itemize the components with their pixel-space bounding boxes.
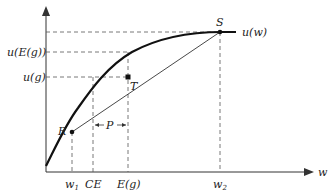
label-R: R — [57, 125, 66, 138]
x-label-w1: w1 — [65, 178, 79, 192]
curve-label: u(w) — [242, 26, 267, 39]
point-S — [218, 30, 223, 35]
y-label-u-E-g: u(E(g)) — [7, 46, 46, 59]
right-arrow-icon — [122, 123, 126, 127]
x-label-w2: w2 — [213, 178, 227, 192]
risk-premium-marker: P — [95, 119, 126, 132]
point-T — [126, 75, 131, 80]
label-T: T — [130, 80, 139, 93]
guide-lines — [46, 32, 220, 172]
utility-diagram: R T S u(w) u(E(g)) u(g) P w1 CE E(g) w2 … — [0, 0, 329, 195]
x-label-E-g: E(g) — [116, 178, 141, 191]
left-arrow-icon — [95, 123, 99, 127]
y-axis-arrow-icon — [42, 6, 50, 16]
y-label-u-g: u(g) — [23, 71, 46, 84]
premium-label: P — [105, 119, 114, 132]
x-axis — [46, 168, 314, 176]
chord-RS — [72, 32, 220, 132]
point-R — [70, 130, 75, 135]
x-axis-label: w — [318, 166, 328, 179]
label-S: S — [216, 16, 224, 29]
x-axis-arrow-icon — [304, 168, 314, 176]
x-label-CE: CE — [85, 178, 101, 191]
y-axis — [42, 6, 50, 172]
